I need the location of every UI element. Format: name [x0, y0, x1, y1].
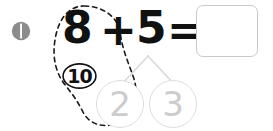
answer-input-box[interactable] — [196, 5, 258, 57]
bond-part-left[interactable]: 2 — [96, 80, 144, 128]
bond-part-right-value: 3 — [150, 81, 196, 127]
bond-part-right[interactable]: 3 — [149, 80, 197, 128]
make-ten-label: 10 — [62, 63, 97, 89]
bond-part-left-value: 2 — [97, 81, 143, 127]
math-worksheet-problem: 8 + 5 = 10 2 3 — [0, 0, 273, 131]
equation-addend-two: 5 — [136, 6, 166, 50]
equation-plus-sign: + — [100, 8, 136, 52]
equation-addend-one: 8 — [62, 6, 92, 50]
make-ten-label-text: 10 — [62, 63, 97, 89]
